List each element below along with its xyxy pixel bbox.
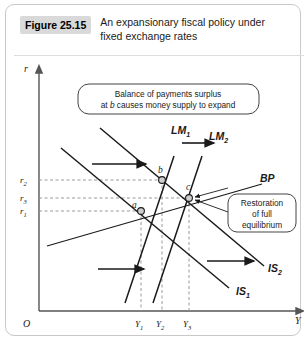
callout-surplus-line1: Balance of payments surplus (115, 89, 222, 99)
curve-LM1 (125, 156, 174, 303)
y-axis-label: r (24, 63, 28, 74)
callout-restoration-line1: Restoration (241, 198, 284, 208)
x-tick-label-Y2: Y2 (156, 319, 165, 331)
figure-header: Figure 25.15 An expansionary fiscal poli… (14, 12, 304, 52)
figure-title: An expansionary fiscal policy under fixe… (100, 16, 265, 43)
y-tick-label-r2: r2 (20, 175, 28, 187)
point-label-a: a (132, 200, 137, 210)
point-label-b: b (158, 165, 163, 175)
curve-label-LM2: LM2 (209, 130, 228, 144)
figure-title-line1: An expansionary fiscal policy under (100, 16, 265, 28)
x-tick-label-Y3: Y3 (183, 319, 192, 331)
y-tick-label-r3: r3 (20, 193, 28, 205)
callout-surplus-line2: at b causes money supply to expand (101, 100, 236, 110)
curve-label-LM1: LM1 (171, 124, 190, 138)
y-tick-label-r1: r1 (20, 206, 27, 218)
x-axis-label: Y (295, 315, 302, 326)
diagram-plot-area: r Y O r2 r3 r1 (14, 55, 304, 337)
callout-restoration-line2: of full (252, 209, 272, 219)
figure-card: Figure 25.15 An expansionary fiscal poli… (5, 4, 301, 336)
origin-label: O (23, 318, 30, 329)
curve-label-IS1: IS1 (236, 285, 250, 299)
pointer-restoration-lower (195, 200, 228, 212)
curve-label-IS2: IS2 (268, 262, 282, 276)
curve-label-BP: BP (260, 172, 276, 184)
point-b (159, 177, 166, 184)
x-tick-label-Y1: Y1 (135, 319, 143, 331)
point-c (186, 195, 193, 202)
point-a (138, 208, 145, 215)
figure-number-badge: Figure 25.15 (20, 16, 91, 34)
figure-title-line2: fixed exchange rates (100, 30, 197, 42)
diagram-svg: r Y O r2 r3 r1 (14, 56, 304, 338)
figure-root: Figure 25.15 An expansionary fiscal poli… (0, 0, 307, 341)
callout-restoration-line3: equilibrium (242, 220, 282, 230)
